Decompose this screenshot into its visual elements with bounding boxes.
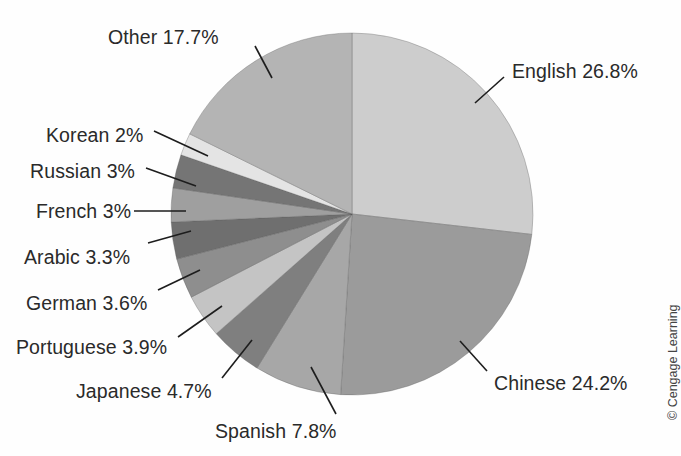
pie-slice-english[interactable] (352, 33, 533, 234)
callout-label-arabic: Arabic 3.3% (24, 246, 130, 269)
copyright-notice: © Cengage Learning (666, 304, 680, 420)
callout-label-german: German 3.6% (26, 292, 147, 315)
callout-label-portuguese: Portuguese 3.9% (16, 336, 167, 359)
callout-label-french: French 3% (36, 200, 131, 223)
callout-label-other: Other 17.7% (108, 26, 219, 49)
pie-slice-group (171, 33, 533, 395)
callout-label-english: English 26.8% (512, 60, 638, 83)
pie-slice-chinese[interactable] (341, 214, 532, 395)
callout-label-russian: Russian 3% (30, 160, 135, 183)
pie-chart-figure: English 26.8%Chinese 24.2%Spanish 7.8%Ja… (0, 0, 681, 456)
callout-label-korean: Korean 2% (46, 124, 143, 147)
callout-label-chinese: Chinese 24.2% (494, 372, 628, 395)
callout-label-japanese: Japanese 4.7% (76, 380, 212, 403)
callout-label-spanish: Spanish 7.8% (215, 420, 337, 443)
